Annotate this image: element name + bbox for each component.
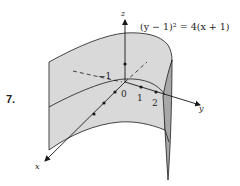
x-axis-label: x bbox=[35, 162, 40, 171]
origin-label: 0 bbox=[121, 89, 127, 99]
figure-number: 7. bbox=[6, 93, 15, 105]
parabolic-cylinder-figure: 7. (y − 1)² = 4(x + 1) z y x 0 1 2 −1 bbox=[0, 0, 240, 186]
y-tick-dot-2 bbox=[154, 90, 157, 93]
y-tick-dot-1 bbox=[139, 85, 142, 88]
y-tick-label-2: 2 bbox=[152, 98, 158, 108]
y-tick-label-1: 1 bbox=[137, 93, 143, 103]
x-tick-dot-3 bbox=[92, 112, 95, 115]
x-tick-dot-2 bbox=[102, 101, 105, 104]
equation-label: (y − 1)² = 4(x + 1) bbox=[140, 21, 230, 32]
neg-one-label: −1 bbox=[98, 71, 111, 81]
z-tick-dot bbox=[123, 62, 126, 65]
y-axis-label: y bbox=[198, 104, 204, 113]
surface-sheet bbox=[49, 33, 172, 150]
x-tick-dot-1 bbox=[113, 90, 116, 93]
z-axis-label: z bbox=[120, 9, 126, 18]
